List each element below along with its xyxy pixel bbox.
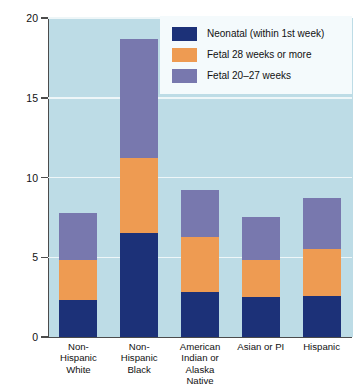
y-axis-tick [41,257,48,259]
x-axis-label-line: Native [163,375,237,386]
bar-segment [242,217,280,260]
y-axis-tick-label: 20 [8,12,38,24]
x-axis-label: Hispanic [285,341,359,352]
bar-segment [242,297,280,337]
legend-item: Neonatal (within 1st week) [160,23,352,44]
y-axis-tick [41,97,48,99]
bar-segment [303,249,341,295]
bar-segment [59,260,97,300]
bar-segment [181,237,219,293]
bar-non-hispanic-white [59,18,97,337]
y-axis-tick [41,177,48,179]
x-axis-label-line: Hispanic [285,341,359,352]
bar-segment [303,296,341,337]
bar-segment [59,213,97,261]
legend-label: Fetal 20–27 weeks [207,70,291,81]
chart-legend: Neonatal (within 1st week)Fetal 28 weeks… [160,16,352,94]
y-axis-tick-label: 0 [8,331,38,343]
y-axis-tick-label: 10 [8,172,38,184]
y-axis-tick-label: 5 [8,251,38,263]
bar-segment [59,300,97,337]
legend-label: Fetal 28 weeks or more [207,49,312,60]
legend-label: Neonatal (within 1st week) [207,28,324,39]
x-axis-label-line: Indian or [163,352,237,363]
legend-color-swatch [172,48,197,62]
x-axis-label-line: Alaska [163,364,237,375]
bar-segment [181,190,219,236]
legend-item: Fetal 20–27 weeks [160,65,352,86]
legend-color-swatch [172,69,197,83]
bar-segment [303,198,341,249]
bar-segment [242,260,280,297]
chart-figure: Rate per 1000 live births and fetal deat… [0,0,360,390]
bar-segment [120,39,158,159]
y-axis-tick-label: 15 [8,92,38,104]
bar-segment [120,233,158,337]
y-axis-tick [41,336,48,338]
bar-non-hispanic-black [120,18,158,337]
bar-segment [181,292,219,337]
legend-item: Fetal 28 weeks or more [160,44,352,65]
legend-color-swatch [172,27,197,41]
y-axis-tick [41,17,48,19]
bar-segment [120,158,158,233]
